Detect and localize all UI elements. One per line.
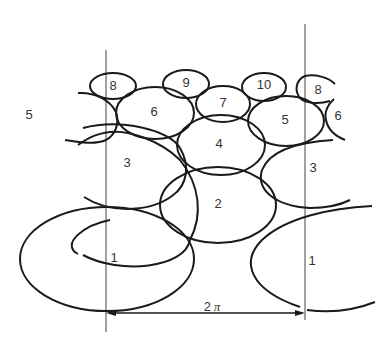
ellipse-5-left-arc	[65, 93, 117, 143]
label-10: 10	[257, 77, 271, 92]
label-2: 2	[214, 196, 221, 211]
period-arrow-right-head	[295, 310, 305, 316]
label-1-left: 1	[110, 250, 117, 265]
label-8-left: 8	[109, 78, 116, 93]
label-6-right: 6	[334, 108, 341, 123]
label-1-right: 1	[308, 253, 315, 268]
label-5-right: 5	[281, 112, 288, 127]
label-3-left: 3	[123, 155, 130, 170]
period-label: 2π	[204, 299, 221, 314]
label-5-left: 5	[25, 107, 32, 122]
label-3-right: 3	[309, 160, 316, 175]
label-8-right: 8	[314, 82, 321, 97]
ellipse-1-left	[20, 207, 194, 311]
ellipse-1-right-lower-arc	[307, 302, 375, 311]
label-9: 9	[182, 75, 189, 90]
label-4: 4	[215, 136, 222, 151]
label-7: 7	[219, 95, 226, 110]
label-6-left: 6	[150, 104, 157, 119]
ellipse-packing-diagram: 2π 1 1 2 3 3 4 5 5 6 6 7 8 8 9 10	[0, 0, 392, 341]
